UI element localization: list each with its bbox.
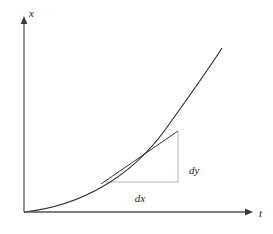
y-axis-label: x xyxy=(28,7,34,19)
dx-label: dx xyxy=(135,192,146,204)
tangent-line xyxy=(101,131,178,184)
y-axis-arrowhead xyxy=(21,16,28,24)
position-curve xyxy=(24,48,222,212)
diagram-canvas: x t dy dx xyxy=(0,0,273,234)
x-axis-label: t xyxy=(259,207,263,219)
derivative-diagram: x t dy dx xyxy=(0,0,273,234)
x-axis-arrowhead xyxy=(245,209,253,216)
dy-label: dy xyxy=(189,164,200,176)
